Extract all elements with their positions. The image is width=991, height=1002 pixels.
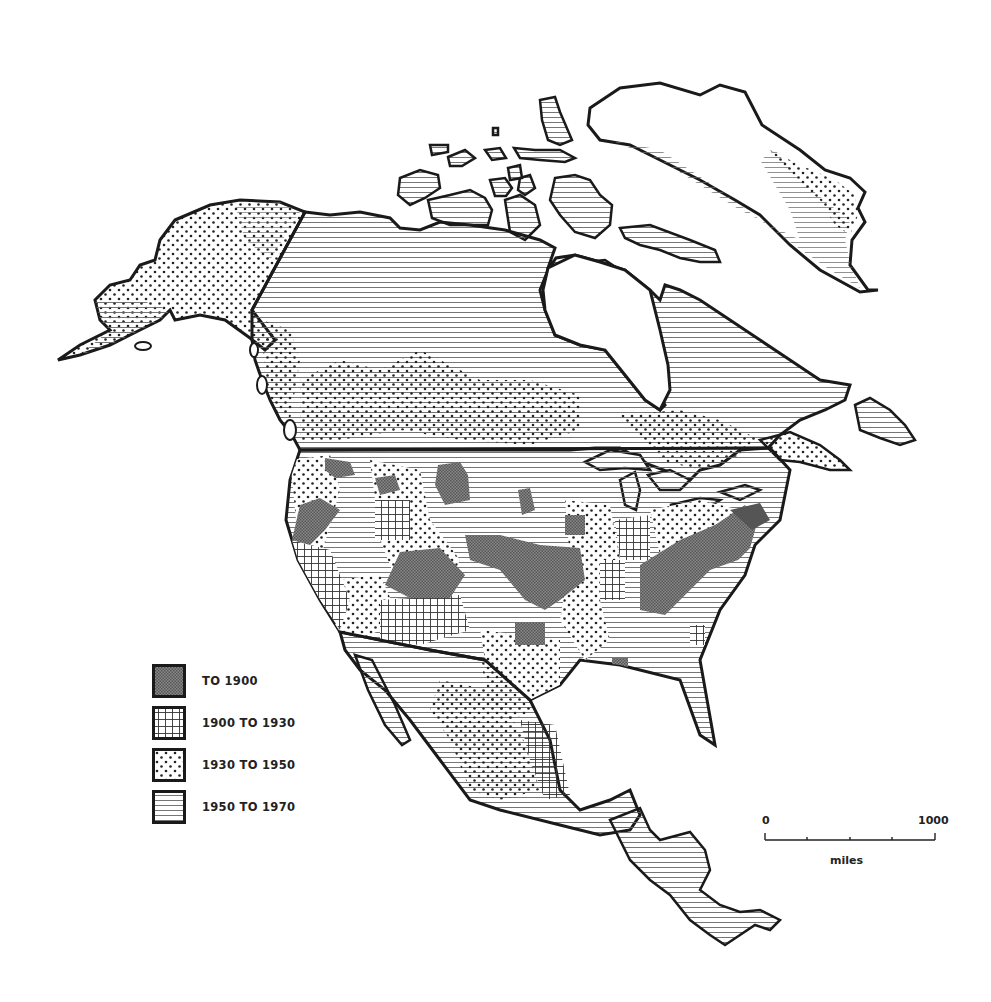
legend-label: TO 1900 bbox=[202, 674, 258, 688]
legend: TO 1900 1900 TO 1930 1930 TO 1950 1950 T… bbox=[152, 660, 352, 828]
scale-bar: 0 1000 miles bbox=[760, 812, 940, 872]
legend-item-to-1900: TO 1900 bbox=[152, 660, 352, 702]
united-states bbox=[286, 448, 790, 745]
scale-unit-label: miles bbox=[830, 854, 863, 867]
grid-swatch-icon bbox=[152, 706, 186, 740]
greenland bbox=[588, 83, 878, 292]
legend-label: 1900 TO 1930 bbox=[202, 716, 295, 730]
scale-ruler-icon bbox=[760, 830, 940, 844]
dark-stipple-swatch-icon bbox=[152, 664, 186, 698]
legend-item-1950-1970: 1950 TO 1970 bbox=[152, 786, 352, 828]
legend-item-1900-1930: 1900 TO 1930 bbox=[152, 702, 352, 744]
legend-label: 1950 TO 1970 bbox=[202, 800, 295, 814]
scale-end-label: 1000 bbox=[918, 814, 949, 827]
scale-start-label: 0 bbox=[762, 814, 770, 827]
legend-label: 1930 TO 1950 bbox=[202, 758, 295, 772]
hlines-swatch-icon bbox=[152, 790, 186, 824]
legend-item-1930-1950: 1930 TO 1950 bbox=[152, 744, 352, 786]
central-america bbox=[610, 808, 780, 945]
dots-swatch-icon bbox=[152, 748, 186, 782]
